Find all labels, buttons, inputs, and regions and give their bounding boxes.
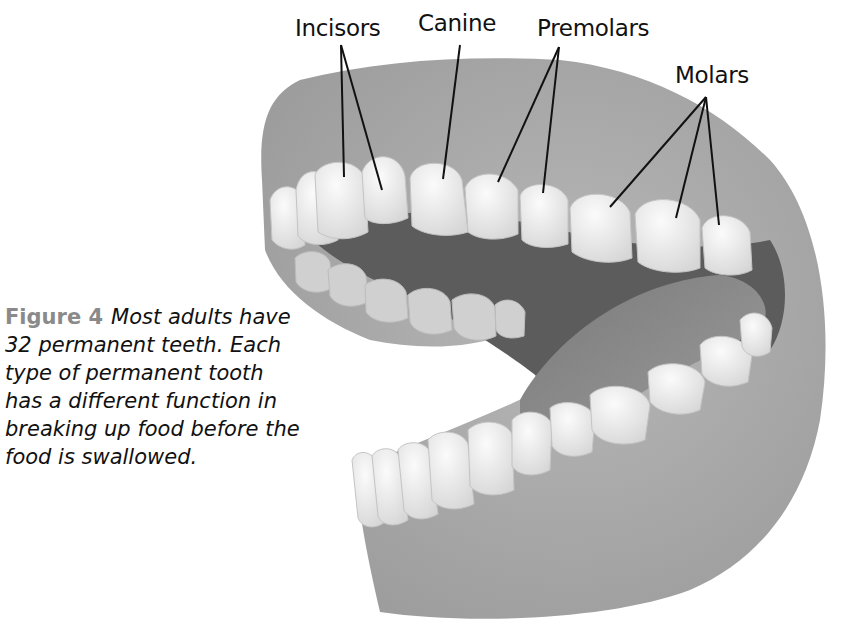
caption-text: Most adults have 32 permanent teeth. Eac… [5,305,300,469]
incisors-label: Incisors [295,15,381,41]
figure-caption: Figure 4Most adults have 32 permanent te… [5,303,305,471]
premolars-label: Premolars [537,15,649,41]
molars-label: Molars [675,62,749,88]
figure-number: Figure 4 [5,305,103,329]
canine-label: Canine [418,10,496,36]
